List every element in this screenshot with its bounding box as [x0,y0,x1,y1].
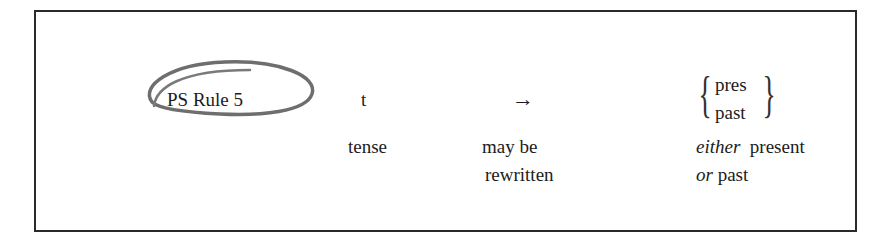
right-brace-icon: } [762,69,775,119]
rule-symbol-t: t [361,90,366,109]
option-pres: pres [715,75,747,94]
gloss-either: either [696,136,740,157]
gloss-present: present [750,136,805,157]
rule-label: PS Rule 5 [167,90,243,109]
gloss-past: past [718,164,749,185]
gloss-rewritten: rewritten [485,165,554,184]
gloss-tense: tense [348,137,387,156]
rewrite-arrow-icon: → [512,88,534,110]
gloss-either-present: either present [696,137,805,156]
option-past: past [715,103,746,122]
gloss-may-be: may be [482,137,537,156]
gloss-or: or [696,164,713,185]
gloss-or-past: or past [696,165,748,184]
left-brace-icon: { [698,69,711,119]
